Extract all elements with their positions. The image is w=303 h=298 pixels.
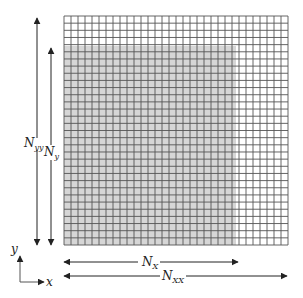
n-y-label: Ny [43,145,60,161]
n-x-label: NX [141,255,159,271]
shaded-subdomain [64,46,236,245]
axis-y-label: y [10,242,18,256]
n-yy-label: Nyy [23,136,44,152]
n-xx-label: NXX [161,269,184,285]
domain-grid-diagram: Nyy Ny NX NXX y x [0,0,303,298]
axis-x-label: x [46,275,53,289]
